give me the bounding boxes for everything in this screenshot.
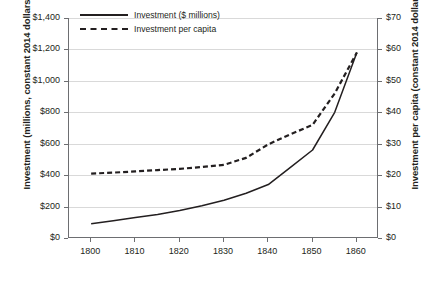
y-axis-left-tick-label: $1,400 [26, 12, 60, 22]
legend-solid-line-icon [80, 10, 128, 20]
y-axis-left-tick-label: $0 [26, 232, 60, 242]
x-axis-tickmark [90, 238, 91, 242]
y-axis-left-tick-label: $400 [26, 169, 60, 179]
plot-area [68, 18, 378, 238]
series-line [91, 53, 357, 174]
legend-item-investment-per-capita: Investment per capita [80, 22, 220, 36]
y-axis-left-tick-label: $200 [26, 201, 60, 211]
legend-item-label: Investment per capita [134, 24, 216, 34]
legend-item-label: Investment ($ millions) [134, 10, 220, 20]
chart-container: Investment (millions, constant 2014 doll… [0, 0, 440, 282]
y-axis-right-tick-label: $40 [386, 106, 420, 116]
x-axis-tickmark [134, 238, 135, 242]
legend-dashed-line-icon [80, 24, 128, 34]
y-axis-right-tick-label: $20 [386, 169, 420, 179]
y-axis-left-tick-label: $600 [26, 138, 60, 148]
x-axis-tick-label: 1800 [70, 246, 110, 256]
y-axis-left-tickmark [64, 238, 68, 239]
y-axis-right-tick-label: $0 [386, 232, 420, 242]
data-series-lines [69, 18, 379, 238]
y-axis-right-tickmark [378, 238, 382, 239]
series-line [91, 53, 357, 224]
y-axis-right-tick-label: $30 [386, 138, 420, 148]
y-axis-right-tick-label: $70 [386, 12, 420, 22]
x-axis-tick-label: 1840 [247, 246, 287, 256]
x-axis-tickmark [223, 238, 224, 242]
x-axis-tick-label: 1830 [203, 246, 243, 256]
y-axis-right-tick-label: $10 [386, 201, 420, 211]
x-axis-tickmark [267, 238, 268, 242]
x-axis-tickmark [312, 238, 313, 242]
y-axis-left-tick-label: $1,000 [26, 75, 60, 85]
x-axis-tickmark [179, 238, 180, 242]
x-axis-tick-label: 1860 [336, 246, 376, 256]
legend-item-investment-millions: Investment ($ millions) [80, 8, 220, 22]
x-axis-tick-label: 1850 [292, 246, 332, 256]
x-axis-tick-label: 1820 [159, 246, 199, 256]
chart-legend: Investment ($ millions) Investment per c… [80, 8, 220, 36]
y-axis-left-tick-label: $1,200 [26, 43, 60, 53]
y-axis-right-tick-label: $50 [386, 75, 420, 85]
y-axis-right-tick-label: $60 [386, 43, 420, 53]
x-axis-tickmark [356, 238, 357, 242]
y-axis-left-tick-label: $800 [26, 106, 60, 116]
x-axis-tick-label: 1810 [114, 246, 154, 256]
